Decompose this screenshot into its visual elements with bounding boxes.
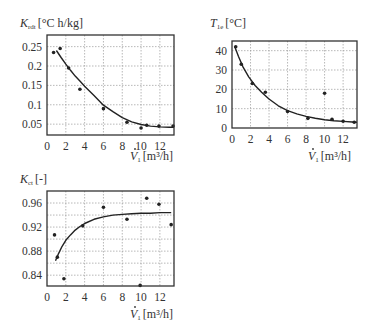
figure: 0.050.10.150.20.25024681012Krdt[°C h/kg]… — [0, 0, 371, 330]
x-tick-label: 6 — [285, 133, 291, 145]
x-tick-label: 0 — [229, 133, 235, 145]
chart-k_ct: 0.840.880.920.96024681012Kct[-]V1[m³/h] — [19, 172, 174, 322]
x-tick-label: 6 — [101, 140, 107, 152]
x-tick-label: 8 — [119, 291, 125, 303]
data-point — [145, 124, 149, 128]
x-tick-label: 2 — [63, 291, 69, 303]
data-point — [330, 118, 334, 122]
y-tick-label: 0.96 — [22, 197, 42, 209]
data-point — [264, 90, 268, 94]
data-point — [78, 87, 82, 91]
y-tick-label: 0 — [221, 122, 227, 134]
data-point — [323, 91, 327, 95]
data-point — [67, 66, 71, 70]
x-tick-label: 8 — [119, 140, 125, 152]
x-tick-label: 2 — [248, 133, 254, 145]
dot-accent-icon — [312, 148, 314, 150]
x-tick-label: 12 — [337, 133, 349, 145]
x-tick-label: 2 — [63, 140, 69, 152]
x-tick-label: 4 — [82, 291, 88, 303]
data-point — [352, 120, 356, 124]
data-point — [102, 107, 106, 111]
x-tick-label: 0 — [44, 140, 50, 152]
x-tick-label: 0 — [44, 291, 50, 303]
fit-curve — [56, 51, 174, 128]
data-point — [53, 233, 57, 237]
data-points — [234, 45, 356, 124]
data-point — [52, 51, 56, 55]
y-axis-label: Kct[-] — [19, 172, 47, 187]
data-point — [139, 126, 143, 130]
data-point — [56, 255, 60, 259]
y-tick-label: 30 — [216, 64, 228, 76]
y-tick-label: 0.15 — [22, 79, 42, 91]
data-point — [157, 124, 161, 128]
data-point — [234, 45, 238, 49]
grid — [232, 41, 357, 128]
x-tick-label: 4 — [82, 140, 88, 152]
chart-k_rdt: 0.050.10.150.20.25024681012Krdt[°C h/kg]… — [19, 16, 175, 164]
y-axis-label: T1e[°C] — [210, 16, 246, 31]
data-points — [53, 196, 173, 287]
data-point — [306, 117, 310, 121]
data-point — [102, 205, 106, 209]
y-tick-label: 40 — [216, 45, 228, 57]
data-point — [125, 217, 129, 221]
y-tick-label: 0.25 — [22, 41, 42, 53]
chart-t_1e: 010203040024681012T1e[°C]V1[m³/h] — [210, 16, 357, 164]
y-tick-label: 0.84 — [22, 269, 42, 281]
data-point — [251, 82, 255, 86]
data-points — [52, 47, 175, 130]
x-tick-label: 6 — [101, 291, 107, 303]
data-point — [145, 196, 149, 200]
data-point — [157, 202, 161, 206]
plot-frame — [47, 191, 174, 286]
x-axis-label: V1[m³/h] — [130, 307, 173, 322]
data-point — [125, 120, 129, 124]
grid — [47, 191, 174, 286]
y-tick-label: 0.2 — [28, 60, 43, 72]
y-tick-label: 0.88 — [22, 245, 42, 257]
data-point — [286, 110, 290, 114]
grid — [47, 35, 174, 135]
data-point — [169, 223, 173, 227]
fit-curve — [56, 213, 172, 261]
data-point — [58, 47, 62, 51]
data-point — [81, 224, 85, 228]
y-axis-label: Krdt[°C h/kg] — [19, 16, 83, 31]
dot-accent-icon — [134, 148, 136, 150]
x-tick-label: 8 — [303, 133, 309, 145]
data-point — [62, 277, 66, 281]
y-tick-label: 10 — [216, 103, 228, 115]
x-axis-label: V1[m³/h] — [130, 149, 173, 164]
data-point — [239, 62, 243, 66]
dot-accent-icon — [134, 306, 136, 308]
x-axis-label: V1[m³/h] — [308, 149, 351, 164]
y-tick-label: 20 — [216, 83, 228, 95]
data-point — [341, 119, 345, 123]
y-tick-label: 0.1 — [28, 99, 43, 111]
x-tick-label: 4 — [266, 133, 272, 145]
x-tick-label: 10 — [135, 291, 147, 303]
y-tick-label: 0.05 — [22, 118, 42, 130]
y-tick-label: 0.92 — [22, 221, 42, 233]
x-tick-label: 10 — [319, 133, 331, 145]
x-tick-label: 12 — [154, 291, 166, 303]
